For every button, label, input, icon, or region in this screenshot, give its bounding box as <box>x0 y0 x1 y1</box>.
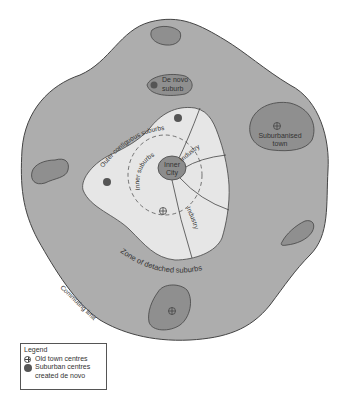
de-novo-centre-dot <box>103 178 111 186</box>
legend-label: Suburban centres <box>35 363 90 372</box>
label-inner-city-1: Inner <box>164 161 181 168</box>
legend-label: Old town centres <box>35 355 88 364</box>
filled-dot-icon <box>24 363 33 371</box>
label-suburbanised-town-1: Suburbanised <box>258 132 301 139</box>
label-de-novo-suburb-2: suburb <box>162 85 184 92</box>
legend-item-de-novo: Suburban centres <box>24 363 103 372</box>
old-town-centre-icon <box>274 123 281 130</box>
legend-item-old-town: Old town centres <box>24 355 103 364</box>
legend-label: created de novo <box>35 372 85 381</box>
old-town-centre-icon <box>160 208 167 215</box>
legend-item-de-novo-cont: created de novo <box>24 372 103 381</box>
de-novo-centre-dot <box>151 82 158 89</box>
old-town-centre-icon <box>169 308 176 315</box>
de-novo-centre-dot <box>174 114 182 122</box>
circle-cross-icon <box>24 355 33 363</box>
legend-title: Legend <box>24 346 103 355</box>
label-suburbanised-town-2: town <box>273 140 288 147</box>
label-de-novo-suburb-1: De novo <box>162 76 188 83</box>
legend-box: Legend Old town centres Suburban centres… <box>20 343 107 390</box>
label-inner-city-2: City <box>166 169 179 177</box>
urban-structure-diagram: De novo suburb Suburbanised town Inner C… <box>0 0 339 402</box>
